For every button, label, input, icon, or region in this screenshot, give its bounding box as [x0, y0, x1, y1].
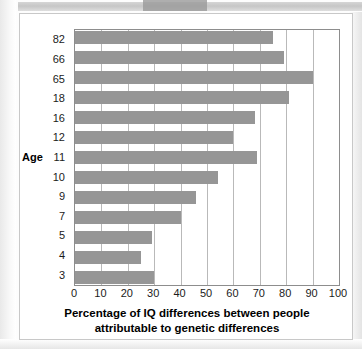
- x-tick-label-40: 40: [173, 287, 185, 299]
- bar-rows: [75, 30, 339, 285]
- y-tick-label-9: 9: [59, 190, 65, 203]
- bar-row: [75, 171, 339, 184]
- bar-row: [75, 71, 339, 84]
- bar-row: [75, 111, 339, 124]
- bar-row: [75, 251, 339, 264]
- x-tick-label-30: 30: [147, 287, 159, 299]
- y-tick-label-18: 18: [53, 92, 65, 105]
- bar-age-5: [75, 231, 152, 244]
- bar-age-3: [75, 271, 154, 284]
- bar-age-65: [75, 71, 313, 84]
- bar-age-18: [75, 91, 289, 104]
- x-axis-title-line-1: Percentage of IQ differences between peo…: [20, 306, 354, 321]
- y-tick-label-4: 4: [59, 249, 65, 262]
- bar-row: [75, 91, 339, 104]
- scan-artifact-band-dark: [143, 0, 207, 11]
- bar-row: [75, 31, 339, 44]
- x-axis-tick-labels: 0102030405060708090100: [74, 287, 338, 303]
- y-tick-label-10: 10: [53, 171, 65, 184]
- x-tick-label-90: 90: [305, 287, 317, 299]
- y-tick-label-5: 5: [59, 229, 65, 242]
- bar-row: [75, 51, 339, 64]
- x-tick-label-60: 60: [226, 287, 238, 299]
- y-tick-label-16: 16: [53, 112, 65, 125]
- x-tick-label-80: 80: [279, 287, 291, 299]
- chart-figure-card: 826665181612111097543 010203040506070809…: [19, 13, 353, 340]
- bar-age-10: [75, 171, 218, 184]
- bar-age-12: [75, 131, 233, 144]
- y-tick-label-82: 82: [53, 33, 65, 46]
- y-tick-label-7: 7: [59, 210, 65, 223]
- bar-age-4: [75, 251, 141, 264]
- bar-row: [75, 131, 339, 144]
- y-tick-label-65: 65: [53, 73, 65, 86]
- bar-row: [75, 211, 339, 224]
- bar-row: [75, 151, 339, 164]
- bar-age-16: [75, 111, 255, 124]
- bar-row: [75, 231, 339, 244]
- bar-row: [75, 271, 339, 284]
- bar-age-11: [75, 151, 257, 164]
- bar-age-7: [75, 211, 181, 224]
- x-tick-label-70: 70: [253, 287, 265, 299]
- figure-page: 826665181612111097543 010203040506070809…: [0, 0, 362, 349]
- x-axis-title-line-2: attributable to genetic differences: [20, 321, 354, 336]
- scan-edge-shadow-left: [0, 0, 16, 349]
- x-tick-label-50: 50: [200, 287, 212, 299]
- bar-row: [75, 191, 339, 204]
- y-tick-label-3: 3: [59, 269, 65, 282]
- x-tick-label-100: 100: [329, 287, 347, 299]
- y-tick-label-66: 66: [53, 53, 65, 66]
- x-tick-label-0: 0: [71, 287, 77, 299]
- y-axis-title: Age: [22, 151, 43, 164]
- y-tick-label-12: 12: [53, 131, 65, 144]
- plot-area: [74, 29, 340, 286]
- y-tick-label-11: 11: [54, 151, 65, 164]
- x-axis-title: Percentage of IQ differences between peo…: [20, 306, 354, 336]
- bar-age-82: [75, 31, 273, 44]
- scan-edge-shadow-bottom: [0, 339, 362, 349]
- x-tick-label-20: 20: [121, 287, 133, 299]
- bar-age-9: [75, 191, 196, 204]
- x-tick-label-10: 10: [94, 287, 106, 299]
- bar-age-66: [75, 51, 284, 64]
